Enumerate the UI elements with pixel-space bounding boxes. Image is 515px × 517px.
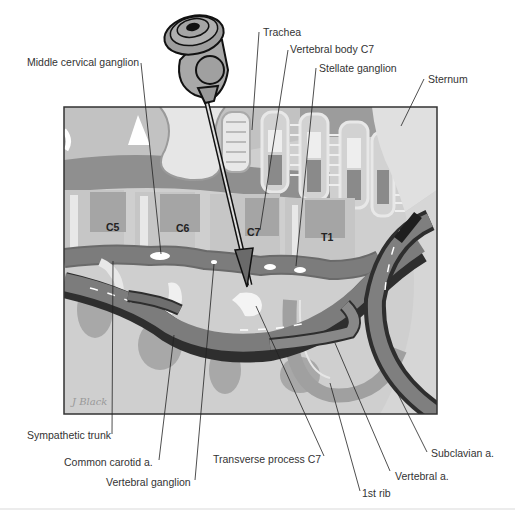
label-first-rib: 1st rib: [362, 487, 391, 499]
label-trachea: Trachea: [263, 26, 301, 38]
stellate-ganglion-spot-1: [264, 264, 276, 270]
label-vertebral-artery: Vertebral a.: [395, 470, 449, 482]
vertebra-label-t1: T1: [321, 231, 333, 243]
label-common-carotid-artery: Common carotid a.: [64, 456, 153, 468]
label-subclavian-artery: Subclavian a.: [431, 447, 494, 459]
label-transverse-process-c7: Transverse process C7: [213, 453, 321, 465]
label-sternum: Sternum: [428, 73, 468, 85]
stellate-ganglion-spot-2: [294, 267, 306, 273]
label-stellate-ganglion: Stellate ganglion: [319, 62, 397, 74]
artist-signature: J Black: [70, 396, 107, 407]
label-middle-cervical-ganglion: Middle cervical ganglion: [27, 56, 139, 68]
trachea-rings: [222, 112, 250, 172]
bottom-divider: [0, 508, 515, 510]
vertebra-label-c7: C7: [247, 226, 261, 238]
label-vertebral-body-c7: Vertebral body C7: [290, 43, 374, 55]
syringe-hub-icon: [161, 10, 228, 103]
label-sympathetic-trunk: Sympathetic trunk: [27, 429, 111, 441]
label-vertebral-ganglion: Vertebral ganglion: [106, 476, 191, 488]
vertebra-label-c5: C5: [106, 221, 120, 233]
vertebral-ganglion-spot: [211, 260, 217, 264]
middle-cervical-ganglion-spot: [150, 252, 170, 260]
vertebra-label-c6: C6: [176, 222, 190, 234]
